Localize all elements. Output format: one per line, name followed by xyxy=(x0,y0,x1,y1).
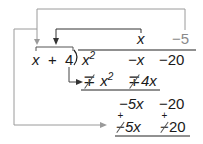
step1-term-x2: ∓ x2 xyxy=(83,73,113,88)
dividend-term-x2: x2 xyxy=(82,52,95,67)
quotient-term-minus5: −5 xyxy=(172,31,189,46)
dividend-term-minus-x: −x xyxy=(128,52,144,67)
step2-term-20: +−20 xyxy=(160,119,186,134)
remainder-term-minus5x: −5x xyxy=(119,96,144,111)
step2-term-5x: +−5x xyxy=(116,119,141,134)
remainder-term-minus20: −20 xyxy=(159,96,184,111)
connector-quotient-x-to-divisor xyxy=(56,29,141,39)
arrow-right-gray-icon xyxy=(100,122,107,128)
quotient-term-x: x xyxy=(137,31,145,46)
arrow-gray-icon xyxy=(34,39,40,45)
arrow-dark-icon xyxy=(53,38,59,45)
division-bracket xyxy=(74,50,77,65)
connector-divisor-to-step1 xyxy=(69,67,76,82)
arrow-right-dark-icon xyxy=(76,79,83,85)
connector-quotient-minus5-to-divisor xyxy=(37,9,185,40)
divisor-term-4: 4 xyxy=(65,52,73,67)
dividend-term-minus20: −20 xyxy=(159,52,184,67)
step1-term-4x: ∓4x xyxy=(128,73,157,88)
divisor-term-x: x xyxy=(32,52,40,67)
divisor-op: + xyxy=(48,52,57,67)
